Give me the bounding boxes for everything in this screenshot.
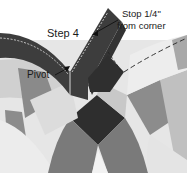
step-label: Step 4 — [47, 28, 79, 39]
pivot-label: Pivot — [27, 69, 49, 80]
stop-label-line1: Stop 1/4" — [122, 8, 161, 19]
quilt-diagram: Step 4 Stop 1/4" from corner Pivot — [0, 0, 187, 173]
stop-label-line2: from corner — [117, 20, 166, 31]
